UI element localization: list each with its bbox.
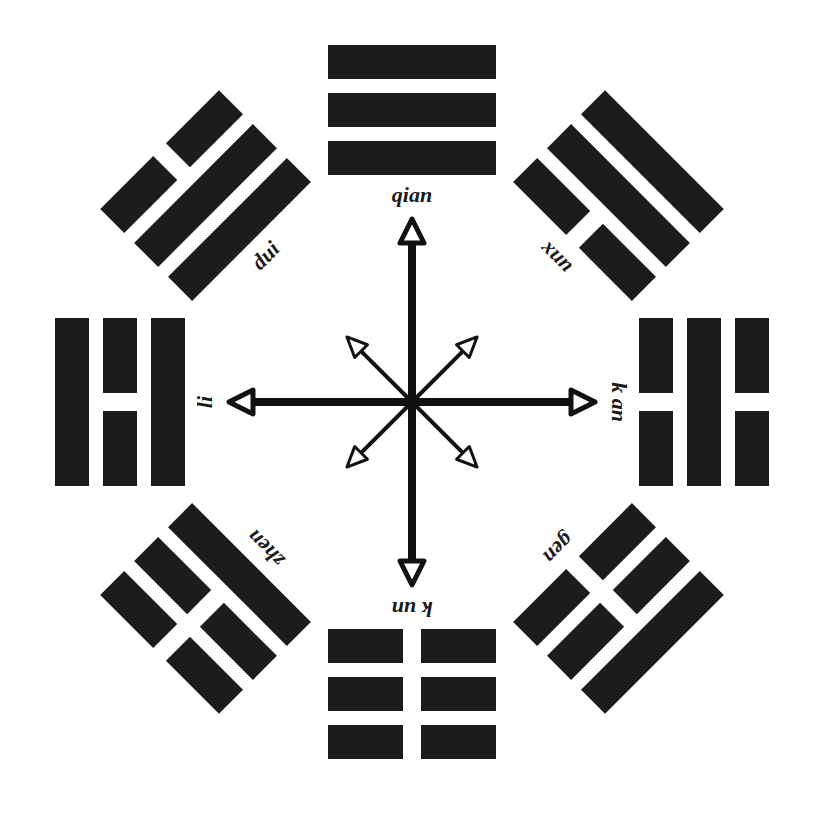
trigram-label-gen: gen: [538, 528, 580, 570]
solid-line: [151, 318, 185, 486]
arrow-head-icon: [229, 390, 253, 414]
trigram-label-kan: k an: [607, 382, 632, 422]
arrow-shaft: [412, 402, 463, 453]
broken-line-left: [735, 318, 769, 393]
solid-line: [328, 141, 496, 175]
trigram-kun: [328, 629, 496, 759]
broken-line-right: [328, 677, 403, 711]
arrow-main-180: [400, 402, 424, 585]
arrow-diagonal-45: [406, 331, 484, 409]
arrow-head-icon: [400, 561, 424, 585]
broken-line-left: [639, 318, 673, 393]
arrow-diagonal-315: [341, 331, 419, 409]
bagua-canvas: qianxunk angenk unzhenlidui: [0, 0, 820, 815]
label-xun: xun: [537, 233, 580, 276]
broken-line-right: [328, 725, 403, 759]
solid-line: [328, 93, 496, 127]
solid-line: [687, 318, 721, 486]
broken-line-right: [103, 318, 137, 393]
broken-line-right: [639, 411, 673, 486]
label-dui: dui: [246, 235, 285, 274]
trigram-label-li: li: [192, 395, 217, 408]
label-kun: k un: [392, 597, 433, 622]
trigram-dui: [100, 90, 311, 301]
arrow-diagonal-135: [406, 396, 484, 474]
center-hub: [406, 396, 418, 408]
label-kan: k an: [607, 382, 632, 422]
broken-line-right: [328, 629, 403, 663]
trigram-qian: [328, 45, 496, 175]
arrow-head-icon: [400, 219, 424, 243]
trigram-xun: [513, 90, 724, 301]
trigram-label-qian: qian: [392, 182, 432, 207]
broken-line-left: [421, 725, 496, 759]
trigram-zhen: [100, 503, 311, 714]
arrow-diagonal-225: [341, 396, 419, 474]
broken-line-left: [421, 677, 496, 711]
solid-line: [55, 318, 89, 486]
trigram-kan: [639, 318, 769, 486]
broken-line-right: [735, 411, 769, 486]
trigram-label-kun: k un: [392, 597, 433, 622]
bagua-diagram: qianxunk angenk unzhenlidui: [0, 0, 820, 815]
label-gen: gen: [538, 528, 580, 570]
trigram-li: [55, 318, 185, 486]
arrow-main-90: [412, 390, 595, 414]
solid-line: [328, 45, 496, 79]
trigram-label-dui: dui: [246, 235, 285, 274]
arrow-shaft: [361, 351, 412, 402]
broken-line-left: [103, 411, 137, 486]
arrow-main-270: [229, 390, 412, 414]
trigram-label-xun: xun: [537, 233, 580, 276]
arrow-head-icon: [571, 390, 595, 414]
trigram-gen: [513, 503, 724, 714]
label-qian: qian: [392, 182, 432, 207]
label-li: li: [192, 395, 217, 408]
broken-line-left: [421, 629, 496, 663]
arrow-layer: [229, 219, 595, 585]
arrow-shaft: [361, 402, 412, 453]
arrow-main-0: [400, 219, 424, 402]
arrow-shaft: [412, 351, 463, 402]
